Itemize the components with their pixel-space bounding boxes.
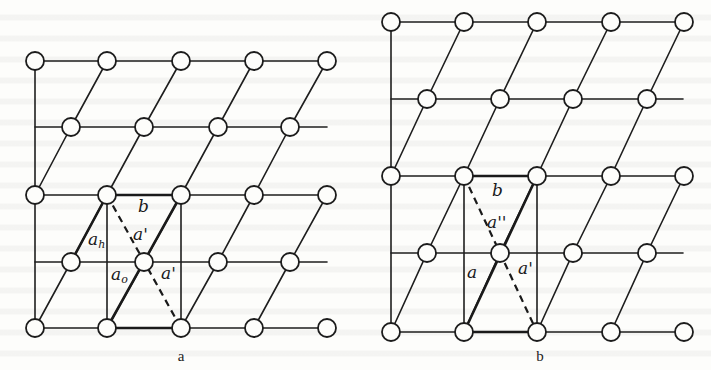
vector-label: ao	[111, 264, 128, 286]
atom-node	[245, 319, 263, 337]
panel-caption: b	[536, 348, 544, 364]
atom-node	[491, 244, 509, 262]
vector-label: a'	[161, 263, 176, 283]
diagonal-line	[537, 253, 573, 332]
atom-node	[98, 52, 116, 70]
atom-node	[382, 323, 400, 341]
atom-node	[602, 13, 620, 31]
diagonal-line	[537, 99, 573, 176]
atom-node	[491, 90, 509, 108]
atom-node	[564, 244, 582, 262]
atom-node	[26, 52, 44, 70]
diagonal-line	[573, 176, 611, 253]
atom-node	[98, 186, 116, 204]
panel-b-distorted-lattice: ba''aa'b	[382, 13, 693, 364]
diagonal-line	[391, 253, 427, 332]
diagonal-line	[611, 253, 647, 332]
atom-node	[455, 13, 473, 31]
atom-node	[528, 323, 546, 341]
atom-node	[382, 167, 400, 185]
diagonal-line	[611, 99, 647, 176]
panel-a-hexagonal-lattice: ba'ahaoa'a	[26, 52, 336, 364]
diagonal-line	[573, 22, 611, 99]
diagonal-line	[35, 127, 71, 195]
vector-label: b	[492, 180, 503, 200]
diagonal-line	[181, 127, 218, 195]
vector-label: b	[138, 196, 149, 216]
atom-node	[209, 253, 227, 271]
atom-node	[281, 253, 299, 271]
diagonal-line	[254, 127, 290, 195]
diagonal-line	[500, 22, 537, 99]
diagonal-line	[218, 195, 254, 262]
diagonal-line	[254, 262, 290, 328]
atom-node	[98, 319, 116, 337]
diagonal-line	[290, 195, 327, 262]
atom-node	[62, 253, 80, 271]
vector-label: a	[467, 262, 477, 282]
diagonal-line	[35, 262, 71, 328]
atom-node	[675, 13, 693, 31]
atom-node	[26, 319, 44, 337]
atom-node	[602, 167, 620, 185]
diagonal-line	[464, 99, 500, 176]
atom-node	[638, 90, 656, 108]
vector-label: a''	[487, 212, 506, 232]
atom-node	[675, 323, 693, 341]
diagonal-line	[290, 61, 327, 127]
atom-node	[26, 186, 44, 204]
atom-node	[62, 118, 80, 136]
atom-node	[455, 323, 473, 341]
atom-node	[528, 13, 546, 31]
diagonal-line	[427, 176, 464, 253]
atom-node	[318, 52, 336, 70]
diagonal-line	[71, 61, 107, 127]
panel-caption: a	[178, 348, 185, 364]
atom-node	[675, 167, 693, 185]
atom-node	[602, 323, 620, 341]
atom-node	[135, 118, 153, 136]
atom-node	[418, 90, 436, 108]
crystal-lattice-figure: ba'ahaoa'a ba''aa'b	[0, 0, 711, 370]
atom-node	[172, 319, 190, 337]
atom-node	[638, 244, 656, 262]
atom-node	[281, 118, 299, 136]
diagonal-line	[218, 61, 254, 127]
atom-node	[172, 52, 190, 70]
atom-node	[318, 186, 336, 204]
atom-node	[528, 167, 546, 185]
vector-label: a'	[518, 258, 533, 278]
atom-node	[418, 244, 436, 262]
diagonal-line	[647, 22, 684, 99]
diagonal-line	[144, 61, 181, 127]
atom-node	[209, 118, 227, 136]
atom-node	[245, 52, 263, 70]
diagonal-line	[647, 176, 684, 253]
diagonal-line	[391, 99, 427, 176]
atom-node	[135, 253, 153, 271]
vector-label: a'	[133, 224, 148, 244]
atom-node	[172, 186, 190, 204]
atom-node	[455, 167, 473, 185]
atom-node	[564, 90, 582, 108]
atom-node	[245, 186, 263, 204]
diagonal-line	[181, 262, 218, 328]
atom-node	[318, 319, 336, 337]
diagonal-line	[107, 127, 144, 195]
vector-labels: ba''aa'	[467, 180, 533, 282]
atom-node	[382, 13, 400, 31]
vector-label: ah	[88, 229, 105, 251]
diagonal-line	[427, 22, 464, 99]
